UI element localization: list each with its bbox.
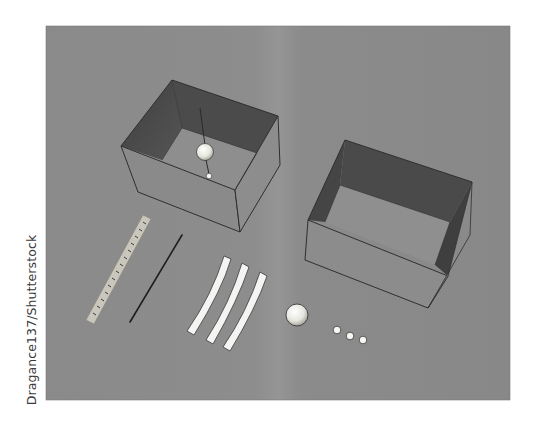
- pendulum-bead: [206, 173, 212, 179]
- illustration: [0, 0, 540, 432]
- bead-2: [346, 332, 354, 340]
- pendulum-ball: [197, 144, 214, 161]
- image-credit: Dragance137/Shutterstock: [24, 235, 39, 406]
- bead-1: [333, 326, 341, 334]
- ball: [286, 304, 308, 326]
- bead-3: [359, 336, 367, 344]
